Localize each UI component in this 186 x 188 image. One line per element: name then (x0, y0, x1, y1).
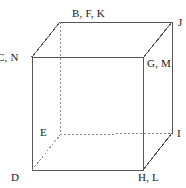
cube-wireframe-svg (0, 0, 186, 188)
cube-solid-edges (32, 22, 172, 170)
cube-diagram-figure: B, F, K J C, N G, M E I D H, L (0, 0, 186, 188)
hidden-edge-back-bottom (60, 133, 172, 135)
vertex-label-top-back-right: J (178, 17, 182, 28)
vertex-label-top-back-left: B, F, K (72, 8, 105, 19)
vertex-label-bottom-front-left: D (11, 172, 19, 183)
vertex-label-bottom-back-left: E (40, 127, 47, 138)
vertex-label-top-front-left: C, N (0, 52, 19, 63)
edge-connect-top-left (32, 22, 60, 57)
edge-connect-top-right (143, 22, 172, 58)
cube-hidden-edges (32, 22, 172, 170)
vertex-label-top-front-right: G, M (147, 58, 171, 69)
edge-connect-bottom-right (143, 133, 172, 170)
edge-front-top (32, 57, 143, 58)
vertex-label-bottom-back-right: I (177, 128, 181, 139)
hidden-edge-connect-bottom-left (32, 135, 60, 170)
vertex-label-bottom-front-right: H, L (138, 172, 159, 183)
